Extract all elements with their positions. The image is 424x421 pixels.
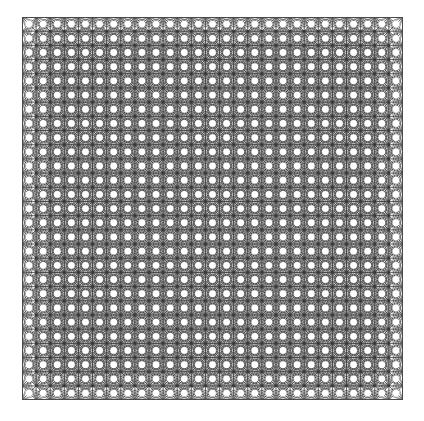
lattice-pattern-svg bbox=[22, 17, 403, 400]
figure-root bbox=[0, 0, 424, 421]
lattice-plot-area bbox=[22, 17, 403, 400]
